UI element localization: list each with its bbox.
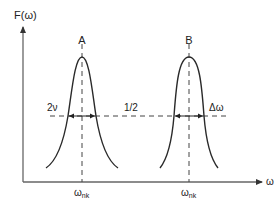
width-label-2v: 2ν	[47, 102, 58, 113]
width-label-delta-omega: Δω	[209, 102, 224, 113]
omega-symbol-b: ω	[181, 187, 189, 198]
center-label-a: ωnk	[74, 187, 90, 199]
peak-a-label: A	[78, 34, 86, 46]
subscript-a: nk	[82, 192, 90, 199]
y-axis-label: F(ω)	[14, 9, 37, 21]
omega-symbol-a: ω	[74, 187, 82, 198]
half-max-label: 1/2	[124, 102, 138, 113]
peak-b-label: B	[185, 34, 192, 46]
center-label-b: ωnk	[181, 187, 197, 199]
x-axis-label: ω	[266, 176, 274, 187]
subscript-b: nk	[189, 192, 197, 199]
lineshape-diagram: F(ω) ω A B 2ν 1/2 Δω ωnk ωnk	[0, 0, 276, 206]
